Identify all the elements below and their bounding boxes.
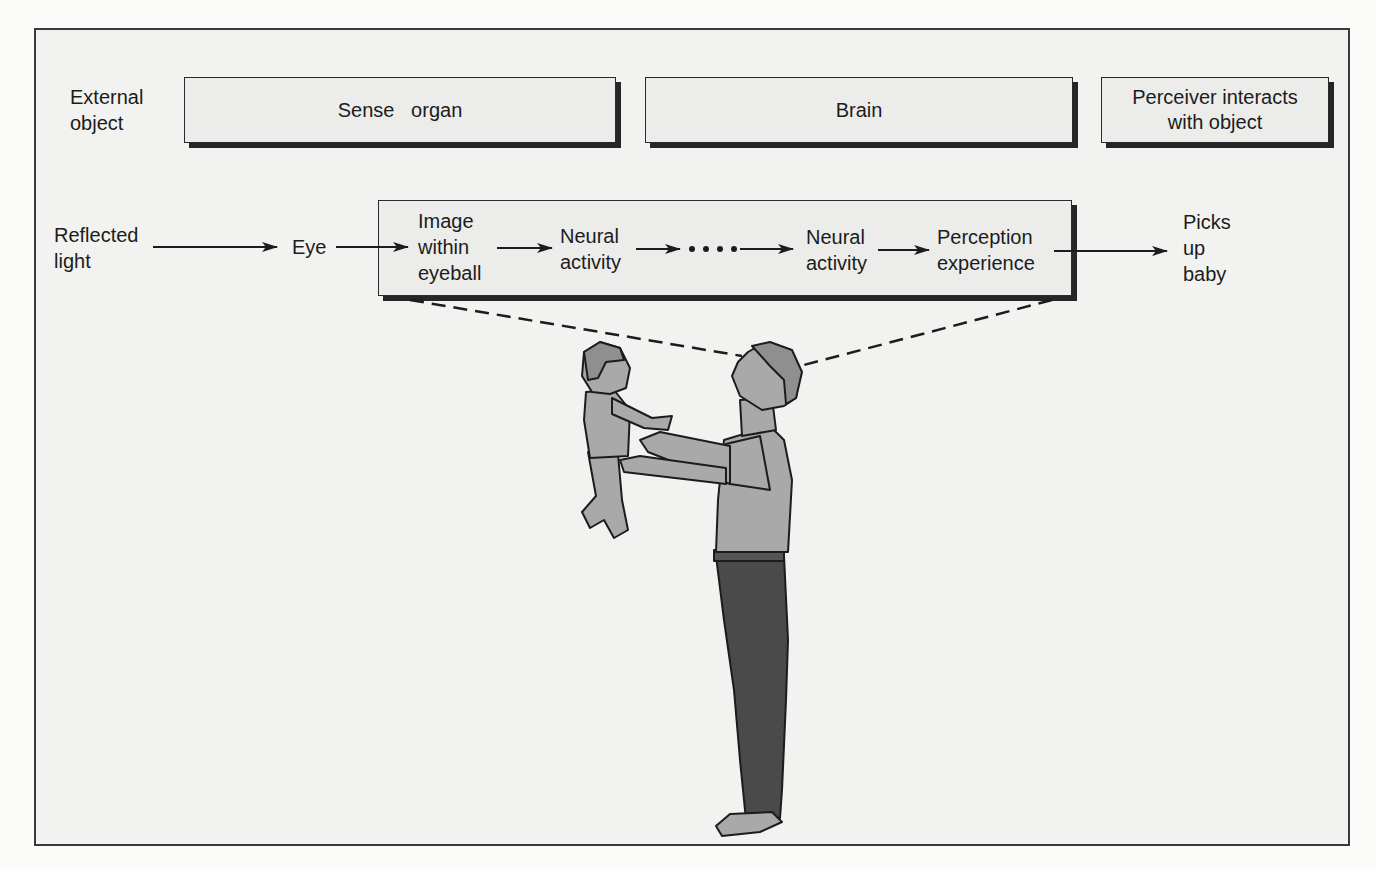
diagram-graphics [0,0,1376,869]
flow-arrows [153,247,1167,251]
sight-lines [410,300,1052,366]
ellipsis-dots [689,246,737,252]
